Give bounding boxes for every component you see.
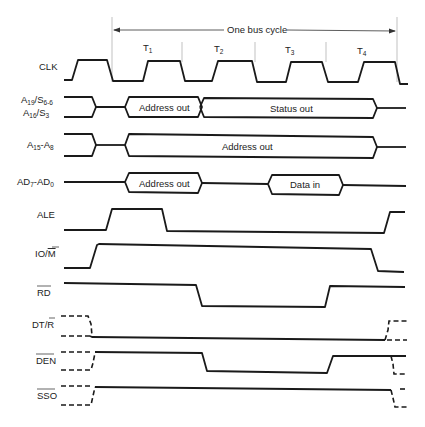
a19-address-out-text: Address out [139,102,190,113]
t4-label: T4 [357,45,367,57]
signal-ad7-ad0: AD7-AD0 Address out Data in [17,173,406,195]
a15-label: A15-A8 [27,139,54,151]
den-label: DEN [36,355,56,366]
ale-label: ALE [37,209,55,220]
a15-address-out-text: Address out [222,141,273,152]
a16-label: A16/S3 [23,107,50,119]
signal-sso: SSO [37,386,407,407]
iom-label: IO/M [35,248,56,259]
arrow-right-icon [389,29,396,34]
signal-den: DEN [36,352,407,374]
iom-waveform [64,244,404,272]
arrow-left-icon [113,28,120,33]
t3-label: T3 [285,44,295,56]
t1-label: T1 [143,42,153,54]
clk-label: CLK [39,61,58,72]
signal-io-m: IO/M [35,244,404,272]
timing-diagram: One bus cycle T1 T2 T3 T4 CLK A19/S6-6 A… [0,0,425,427]
a19-status-out-text: Status out [270,103,313,114]
ad-label: AD7-AD0 [17,176,54,188]
dtr-label: DT/R [32,319,54,330]
signal-ale: ALE [37,209,405,233]
t2-label: T2 [214,43,224,55]
bus-cycle-arrow: One bus cycle [113,24,396,35]
signal-clk: CLK [39,60,408,84]
ad-data-in-text: Data in [290,179,320,190]
rd-waveform [64,283,405,307]
ale-waveform [64,209,405,233]
signal-a15-a8: A15-A8 Address out [27,134,406,158]
signal-dt-r: DT/R [32,316,407,340]
ad-address-out-text: Address out [139,178,190,189]
a19-label: A19/S6-6 [21,94,53,106]
rd-label: RD [37,287,51,298]
bus-cycle-label: One bus cycle [227,24,287,35]
clk-waveform [64,60,408,84]
signal-rd: RD [37,283,405,307]
signal-a19-a16: A19/S6-6 A16/S3 Address out Status out [21,94,406,119]
sso-label: SSO [37,390,57,401]
